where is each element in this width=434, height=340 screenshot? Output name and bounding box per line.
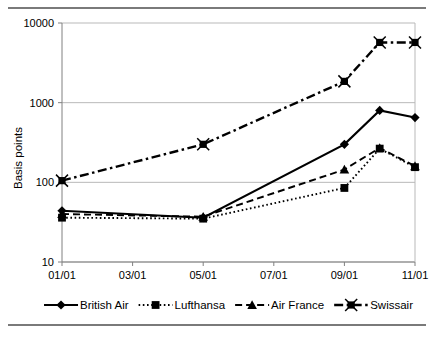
legend-label-british-air: British Air	[80, 299, 129, 311]
x-tick-label-03/01: 03/01	[119, 269, 147, 281]
legend-item-air-france[interactable]: Air France	[235, 299, 324, 311]
series-line-british-air	[62, 110, 415, 217]
legend-label-swissair: Swissair	[370, 299, 413, 311]
line-chart: 10000100010010 01/0103/0105/0107/0109/01…	[0, 8, 434, 326]
x-axis-tick-labels: 01/0103/0105/0107/0109/0111/01	[48, 262, 428, 281]
chart-area: 10000100010010 01/0103/0105/0107/0109/01…	[0, 8, 434, 326]
data-point-lufthansa-2	[341, 184, 349, 192]
y-axis-title: Basis points	[12, 127, 24, 189]
legend-item-british-air[interactable]: British Air	[44, 299, 129, 311]
legend-item-swissair[interactable]: Swissair	[334, 299, 413, 311]
data-series	[56, 36, 421, 222]
y-tick-label-1000: 1000	[30, 97, 54, 109]
y-tick-label-10: 10	[42, 256, 54, 268]
grid-lines	[62, 23, 415, 262]
x-tick-label-11/01: 11/01	[402, 269, 429, 281]
axes	[62, 23, 415, 262]
legend-label-lufthansa: Lufthansa	[175, 299, 226, 311]
data-point-british-air-4	[410, 113, 419, 122]
y-tick-label-100: 100	[36, 176, 54, 188]
x-tick-label-01/01: 01/01	[48, 269, 76, 281]
legend-item-lufthansa[interactable]: Lufthansa	[139, 299, 226, 311]
data-point-air-france-2	[340, 165, 350, 174]
x-tick-label-07/01: 07/01	[260, 269, 288, 281]
legend-marker-lufthansa	[152, 301, 160, 309]
y-axis-tick-labels: 10000100010010	[23, 17, 62, 268]
legend-label-air-france: Air France	[271, 299, 324, 311]
chart-legend: British AirLufthansaAir FranceSwissair	[44, 299, 413, 311]
x-tick-label-09/01: 09/01	[331, 269, 359, 281]
legend-marker-british-air	[56, 300, 65, 309]
series-swissair	[56, 36, 421, 186]
x-tick-label-05/01: 05/01	[189, 269, 217, 281]
y-tick-label-10000: 10000	[23, 17, 54, 29]
figure-container: 10000100010010 01/0103/0105/0107/0109/01…	[0, 0, 434, 340]
series-line-swissair	[62, 42, 415, 180]
